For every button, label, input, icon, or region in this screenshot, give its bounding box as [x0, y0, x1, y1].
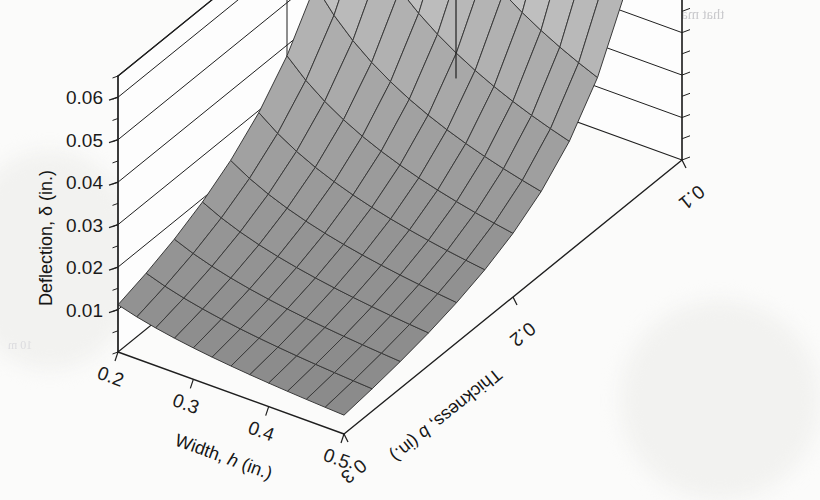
x-tick-label: 0.4 — [245, 417, 277, 446]
x-tick-label: 0.3 — [170, 389, 202, 418]
z-tick-label: 0.01 — [66, 300, 103, 321]
x-tick-label: 0.2 — [95, 362, 127, 391]
z-tick-label: 0.03 — [66, 215, 103, 236]
z-axis-title: Deflection, δ (in.) — [36, 170, 56, 306]
y-tick-label: 0.1 — [675, 181, 709, 214]
z-tick-label: 0.02 — [66, 257, 103, 278]
z-tick-label: 0.05 — [66, 130, 103, 151]
z-tick-label: 0.04 — [66, 172, 103, 193]
y-axis-title: Thickness, b (in.) — [387, 364, 506, 466]
y-tick-label: 0.2 — [506, 318, 540, 351]
z-tick-label: 0.06 — [66, 87, 103, 108]
